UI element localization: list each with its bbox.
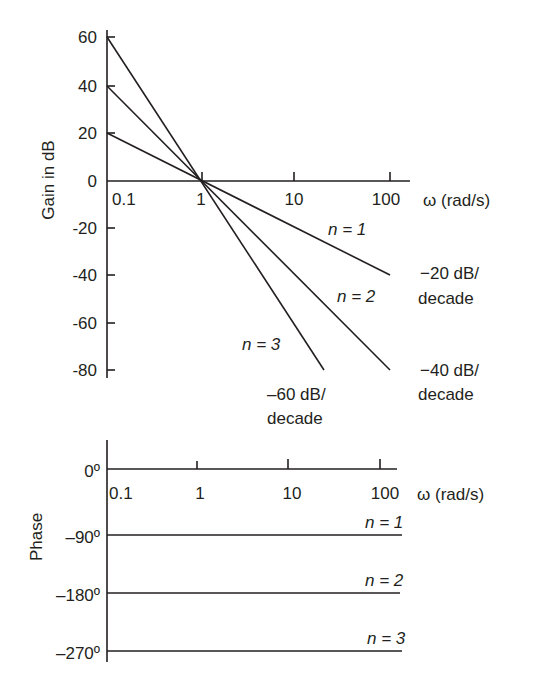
gain-x-label: ω (rad/s) (423, 191, 490, 210)
phase-xtick-100: 100 (371, 484, 399, 503)
gain-ytick-m80: -80 (72, 361, 97, 380)
gain-ytick-m40: -40 (72, 266, 97, 285)
phase-plot: 0º –90º –180º –270º 0.1 1 10 100 Phase ω… (27, 440, 484, 663)
gain-label-n1: n = 1 (328, 220, 366, 239)
gain-ytick-0: 0 (88, 172, 97, 191)
gain-ytick-m60: -60 (72, 314, 97, 333)
gain-plot: 60 40 20 0 -20 -40 -60 -80 0.1 1 10 100 … (39, 28, 490, 428)
slope-label-n3-line2: decade (267, 409, 323, 428)
gain-label-n3: n = 3 (242, 335, 281, 354)
gain-xtick-0.1: 0.1 (112, 190, 136, 209)
phase-x-label: ω (rad/s) (417, 485, 484, 504)
phase-xtick-1: 1 (195, 484, 204, 503)
gain-xtick-10: 10 (285, 190, 304, 209)
phase-label-n3: n = 3 (367, 629, 406, 648)
phase-label-n1: n = 1 (365, 513, 403, 532)
gain-ytick-m20: -20 (72, 219, 97, 238)
phase-ytick-m270: –270º (56, 644, 100, 663)
gain-ytick-20: 20 (78, 124, 97, 143)
phase-x-ticks (197, 459, 380, 469)
phase-y-label: Phase (27, 513, 46, 561)
phase-ytick-m90: –90º (65, 528, 100, 547)
phase-xtick-0.1: 0.1 (109, 484, 133, 503)
phase-label-n2: n = 2 (365, 571, 404, 590)
phase-ytick-m180: –180º (56, 586, 100, 605)
gain-xtick-1: 1 (196, 190, 205, 209)
phase-xtick-10: 10 (283, 484, 302, 503)
slope-label-n2-line1: −40 dB/ (420, 361, 479, 380)
gain-x-ticks (202, 172, 390, 181)
gain-ytick-60: 60 (78, 28, 97, 47)
slope-label-n2-line2: decade (418, 385, 474, 404)
phase-ytick-0: 0º (84, 462, 100, 481)
slope-label-n3-line1: –60 dB/ (267, 385, 326, 404)
bode-plot: 60 40 20 0 -20 -40 -60 -80 0.1 1 10 100 … (0, 0, 533, 694)
gain-y-label: Gain in dB (39, 140, 58, 219)
slope-label-n1-line2: decade (418, 289, 474, 308)
gain-label-n2: n = 2 (337, 287, 376, 306)
slope-label-n1-line1: −20 dB/ (420, 264, 479, 283)
gain-xtick-100: 100 (372, 190, 400, 209)
gain-ytick-40: 40 (78, 77, 97, 96)
